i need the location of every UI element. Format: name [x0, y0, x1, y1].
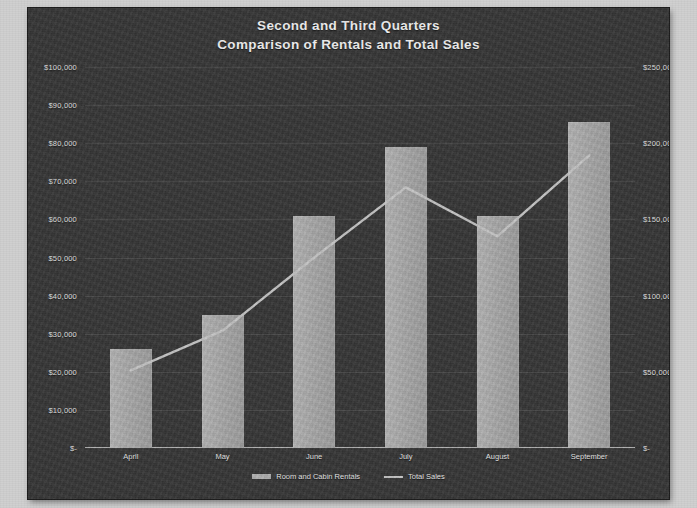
- x-axis-tick-label: April: [123, 452, 138, 461]
- y-axis-left-tick: $30,000: [48, 329, 77, 338]
- legend-label-rentals: Room and Cabin Rentals: [276, 472, 360, 481]
- y-axis-left-tick: $-: [70, 444, 77, 453]
- y-axis-left-tick: $50,000: [48, 253, 77, 262]
- y-axis-left-tick: $10,000: [48, 405, 77, 414]
- y-axis-right-tick: $250,000: [643, 63, 669, 72]
- chart-canvas: Second and Third Quarters Comparison of …: [28, 8, 669, 499]
- total-sales-polyline: [131, 155, 589, 370]
- y-axis-left-tick: $100,000: [44, 63, 77, 72]
- legend-line-swatch-icon: [384, 476, 403, 478]
- chart-title-line2: Comparison of Rentals and Total Sales: [28, 35, 669, 54]
- y-axis-right-tick: $100,000: [643, 291, 669, 300]
- x-axis-tick-label: May: [215, 452, 229, 461]
- legend-label-total-sales: Total Sales: [408, 472, 445, 481]
- chart-title-line1: Second and Third Quarters: [257, 18, 440, 33]
- legend-item-room-and-cabin-rentals: Room and Cabin Rentals: [252, 472, 360, 481]
- chart-legend: Room and Cabin Rentals Total Sales: [28, 472, 669, 481]
- y-axis-left-tick: $80,000: [48, 139, 77, 148]
- y-axis-right-tick: $50,000: [643, 367, 669, 376]
- y-axis-right-tick: $200,000: [643, 139, 669, 148]
- chart-title: Second and Third Quarters Comparison of …: [28, 16, 669, 54]
- y-axis-left-tick: $60,000: [48, 215, 77, 224]
- y-axis-left-tick: $90,000: [48, 101, 77, 110]
- y-axis-left-tick: $20,000: [48, 367, 77, 376]
- line-series-total-sales: [85, 67, 635, 448]
- y-axis-right-tick: $150,000: [643, 215, 669, 224]
- x-axis-tick-label: September: [571, 452, 608, 461]
- x-axis-tick-label: July: [399, 452, 412, 461]
- y-axis-left-tick: $40,000: [48, 291, 77, 300]
- legend-bar-swatch-icon: [252, 474, 271, 479]
- chart-screenshot: Second and Third Quarters Comparison of …: [0, 0, 697, 508]
- y-axis-right-tick: $-: [643, 444, 650, 453]
- x-axis-tick-label: June: [306, 452, 322, 461]
- x-axis-tick-label: August: [486, 452, 509, 461]
- y-axis-left-tick: $70,000: [48, 177, 77, 186]
- plot-area: $-$10,000$20,000$30,000$40,000$50,000$60…: [85, 67, 635, 448]
- x-axis-labels: AprilMayJuneJulyAugustSeptember: [85, 452, 635, 468]
- legend-item-total-sales: Total Sales: [384, 472, 445, 481]
